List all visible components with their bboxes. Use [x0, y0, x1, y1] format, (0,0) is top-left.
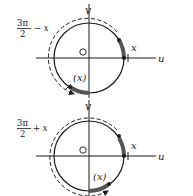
image-arc	[89, 185, 108, 191]
arc-x	[119, 40, 124, 58]
point-start	[122, 154, 126, 158]
point-start	[122, 56, 126, 60]
angle-operator: + x	[33, 123, 48, 133]
image-arc	[70, 87, 89, 93]
image-arc-label: (x)	[93, 171, 107, 182]
unit-circle-figure: v u x (x) 3π 2 − x v u x (x) 3π 2 + x	[0, 0, 193, 196]
point-end	[117, 134, 121, 138]
v-label: v	[85, 100, 92, 113]
v-label: v	[85, 4, 92, 17]
image-point	[107, 182, 111, 186]
angle-denominator: 2	[20, 29, 25, 39]
angle-numerator: 3π	[17, 118, 28, 128]
u-label: u	[158, 151, 164, 162]
arc-x-label: x	[131, 140, 137, 151]
angle-numerator: 3π	[17, 18, 28, 28]
image-arc-label: (x)	[73, 72, 87, 83]
u-label: u	[158, 53, 164, 64]
diagram-bottom: v u x (x) 3π 2 + x	[17, 100, 164, 196]
arc-x	[119, 138, 124, 156]
origin-marker	[80, 147, 86, 153]
origin-marker	[80, 49, 86, 55]
angle-operator: − x	[34, 23, 49, 33]
arc-x-label: x	[131, 42, 137, 53]
point-end	[117, 38, 121, 42]
diagram-top: v u x (x) 3π 2 − x	[17, 4, 164, 98]
angle-denominator: 2	[20, 129, 25, 139]
